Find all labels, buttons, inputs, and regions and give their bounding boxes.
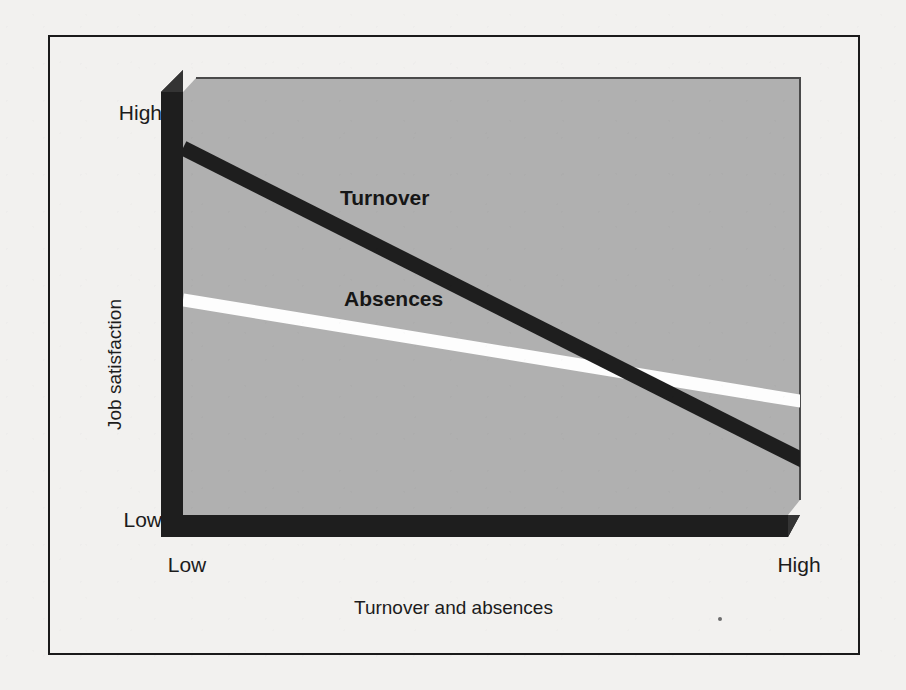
y-axis-title: Job satisfaction — [104, 299, 126, 430]
y-axis-tick-low: Low — [96, 508, 162, 532]
x-axis-title: Turnover and absences — [354, 597, 553, 619]
x-axis-tick-high: High — [764, 553, 834, 577]
axis-bevel-highlight — [161, 70, 183, 92]
series-label-turnover: Turnover — [340, 186, 429, 210]
figure-container: Job satisfaction High Low Low High Turno… — [0, 0, 906, 690]
y-axis-tick-high: High — [96, 101, 162, 125]
ink-speck — [718, 617, 722, 621]
x-axis-tick-low: Low — [152, 553, 222, 577]
series-label-absences: Absences — [344, 287, 443, 311]
axis-bevel-shadow — [788, 515, 800, 537]
